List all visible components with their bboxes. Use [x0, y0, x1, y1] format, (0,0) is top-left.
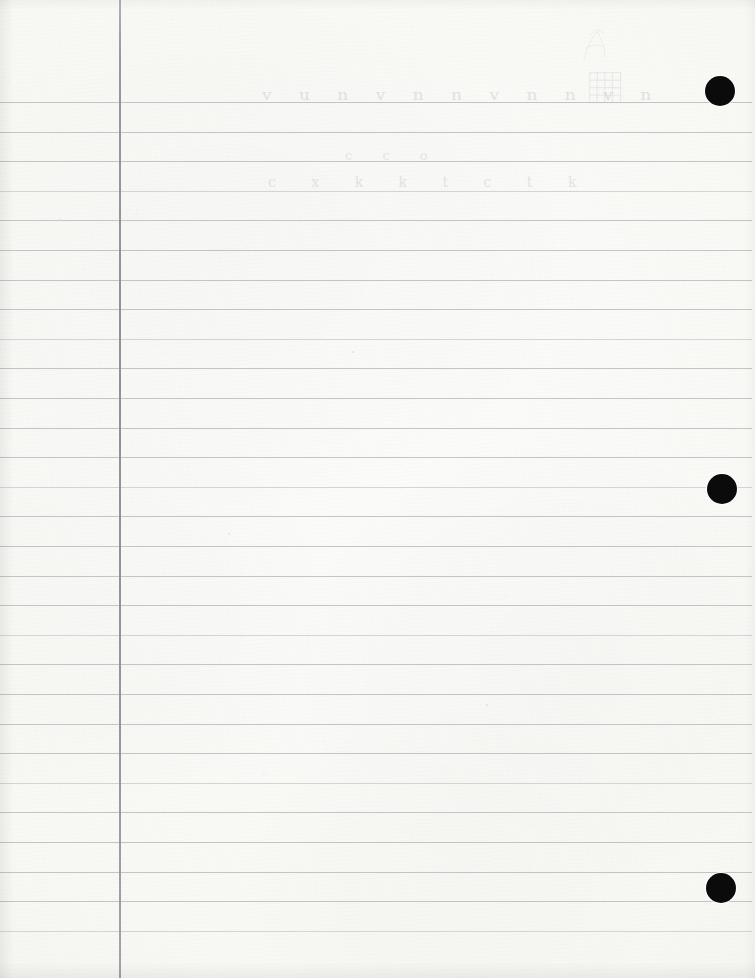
rule-line — [0, 605, 752, 606]
handwriting-line-3: c x k k t c t k — [268, 174, 585, 190]
scan-edge-shadow-bottom — [0, 962, 755, 978]
rule-line — [0, 783, 752, 784]
scan-speck — [59, 219, 62, 221]
rule-line — [0, 280, 752, 281]
rule-line — [0, 368, 752, 369]
rule-line — [0, 250, 752, 251]
margin-rule-line — [119, 0, 121, 978]
scan-speck — [228, 533, 230, 535]
rule-line — [0, 546, 752, 547]
rule-line — [0, 724, 752, 725]
scan-speck — [352, 351, 354, 353]
scribble-doodle-icon — [578, 26, 614, 66]
hole-middle — [707, 474, 737, 504]
paper-grain-texture — [0, 0, 755, 978]
scan-edge-shadow-top — [0, 0, 755, 10]
rule-line — [0, 191, 752, 192]
hole-bottom — [706, 873, 736, 903]
rule-line — [0, 398, 752, 399]
rule-line — [0, 694, 752, 695]
grid-doodle-icon — [589, 72, 622, 104]
scan-edge-shadow-right — [745, 0, 755, 978]
rule-line — [0, 901, 752, 902]
rule-line — [0, 931, 752, 932]
rule-line — [0, 664, 752, 665]
rule-line — [0, 753, 752, 754]
rule-line — [0, 635, 752, 636]
scanned-notebook-page: v u n v n n v n n v nc c oc x k k t c t … — [0, 0, 755, 978]
rule-line — [0, 576, 752, 577]
scan-speck — [486, 704, 488, 706]
rule-line — [0, 487, 752, 488]
handwriting-line-2: c c o — [345, 148, 435, 163]
rule-line — [0, 309, 752, 310]
rule-line — [0, 812, 752, 813]
hole-top — [705, 76, 735, 106]
rule-line — [0, 339, 752, 340]
rule-line — [0, 457, 752, 458]
scan-edge-shadow-left — [0, 0, 14, 978]
rule-line — [0, 516, 752, 517]
rule-line — [0, 842, 752, 843]
rule-line — [0, 132, 752, 133]
rule-line — [0, 428, 752, 429]
rule-line — [0, 872, 752, 873]
rule-line — [0, 220, 752, 221]
